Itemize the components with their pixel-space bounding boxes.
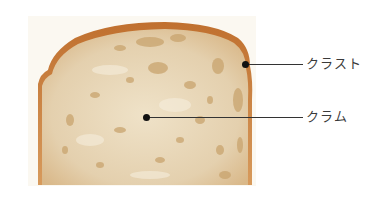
crumb-marker-dot (143, 114, 150, 121)
crust-label: クラスト (306, 57, 362, 70)
crumb-leader-line (147, 117, 303, 118)
crust-leader-line (246, 64, 303, 65)
crumb-label: クラム (306, 110, 348, 123)
bread-slice-image (0, 0, 390, 199)
crust-marker-dot (242, 61, 249, 68)
